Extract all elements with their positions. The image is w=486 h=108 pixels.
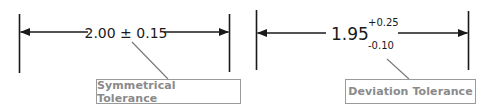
deviation-leader-line bbox=[387, 59, 409, 79]
symmetrical-dimension-text: 2.00 ± 0.15 bbox=[85, 25, 168, 41]
deviation-nominal-text: 1.95 bbox=[331, 24, 369, 44]
symmetrical-leader-line bbox=[132, 42, 168, 79]
deviation-tolerance-label-text: Deviation Tolerance bbox=[348, 85, 473, 98]
symmetrical-tolerance-dimension: 2.00 ± 0.15 bbox=[20, 14, 230, 79]
deviation-tolerance-dimension: 1.95 +0.25 -0.10 bbox=[257, 10, 469, 79]
deviation-tolerance-label: Deviation Tolerance bbox=[345, 79, 476, 104]
symmetrical-tolerance-label-text: Symmetrical Tolerance bbox=[97, 79, 240, 105]
symmetrical-tolerance-label: Symmetrical Tolerance bbox=[96, 79, 241, 104]
deviation-upper-text: +0.25 bbox=[368, 17, 399, 28]
deviation-lower-text: -0.10 bbox=[368, 40, 394, 51]
